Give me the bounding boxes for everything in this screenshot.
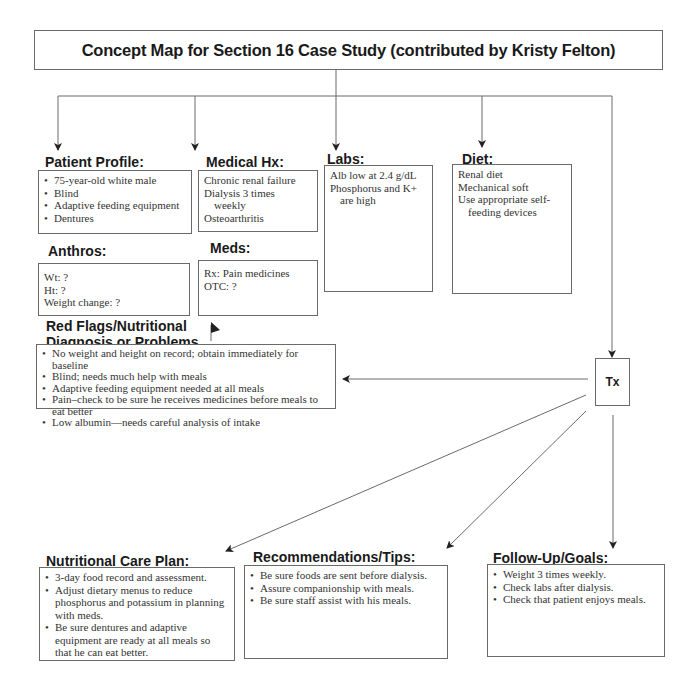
anthros-heading: Anthros: <box>48 243 106 259</box>
list-item: Be sure dentures and adaptive equipment … <box>45 621 229 659</box>
tx-node: Tx <box>595 358 630 406</box>
list-item: Dentures <box>44 212 186 225</box>
text-line: Osteoarthritis <box>204 212 312 225</box>
list-item: Check that patient enjoys meals. <box>493 593 659 606</box>
meds-box: Rx: Pain medicines OTC: ? <box>198 260 318 316</box>
list-item: 75-year-old white male <box>44 174 186 187</box>
patient-profile-box: 75-year-old white male Blind Adaptive fe… <box>38 170 192 234</box>
text-line: Use appropriate self- <box>458 193 566 206</box>
text-line: are high <box>330 194 427 207</box>
text-line: feeding devices <box>458 206 566 219</box>
medical-hx-heading: Medical Hx: <box>206 154 284 170</box>
list-item: Blind <box>44 187 186 200</box>
diagram-title: Concept Map for Section 16 Case Study (c… <box>82 41 616 60</box>
text-line: Alb low at 2.4 g/dL <box>330 169 427 182</box>
text-line: Phosphorus and K+ <box>330 182 427 195</box>
recommendations-heading: Recommendations/Tips: <box>253 549 415 565</box>
medical-hx-box: Chronic renal failure Dialysis 3 times w… <box>198 170 318 232</box>
text-line: Weight change: ? <box>44 296 184 309</box>
red-flags-box: No weight and height on record; obtain i… <box>36 344 336 409</box>
meds-heading: Meds: <box>210 240 250 256</box>
list-item: Adjust dietary menus to reduce phosphoru… <box>45 584 229 622</box>
text-line: OTC: ? <box>204 280 312 293</box>
follow-up-box: Weight 3 times weekly. Check labs after … <box>487 564 665 657</box>
title-box: Concept Map for Section 16 Case Study (c… <box>34 30 663 70</box>
list-item: Weight 3 times weekly. <box>493 568 659 581</box>
diet-box: Renal diet Mechanical soft Use appropria… <box>452 164 572 294</box>
list-item: Check labs after dialysis. <box>493 581 659 594</box>
recommendations-box: Be sure foods are sent before dialysis. … <box>244 565 448 659</box>
care-plan-box: 3-day food record and assessment. Adjust… <box>39 567 235 661</box>
text-line: Ht: ? <box>44 284 184 297</box>
heading-line: Red Flags/Nutritional <box>46 318 198 334</box>
text-line: Mechanical soft <box>458 181 566 194</box>
list-item: 3-day food record and assessment. <box>45 571 229 584</box>
list-item: Adaptive feeding equipment <box>44 199 186 212</box>
list-item: Be sure foods are sent before dialysis. <box>250 569 442 582</box>
patient-profile-heading: Patient Profile: <box>45 154 144 170</box>
text-line: Rx: Pain medicines <box>204 267 312 280</box>
list-item: Low albumin—needs careful analysis of in… <box>42 417 330 429</box>
anthros-box: Wt: ? Ht: ? Weight change: ? <box>38 263 190 316</box>
text-line: Dialysis 3 times <box>204 187 312 200</box>
list-item: No weight and height on record; obtain i… <box>42 348 330 371</box>
tx-label: Tx <box>605 375 619 389</box>
text-line: Chronic renal failure <box>204 174 312 187</box>
labs-box: Alb low at 2.4 g/dL Phosphorus and K+ ar… <box>324 165 433 292</box>
text-line: Wt: ? <box>44 271 184 284</box>
text-line: weekly <box>204 199 312 212</box>
list-item: Assure companionship with meals. <box>250 582 442 595</box>
list-item: Be sure staff assist with his meals. <box>250 594 442 607</box>
list-item: Pain–check to be sure he receives medici… <box>42 394 330 417</box>
text-line: Renal diet <box>458 168 566 181</box>
list-item: Blind; needs much help with meals <box>42 371 330 383</box>
